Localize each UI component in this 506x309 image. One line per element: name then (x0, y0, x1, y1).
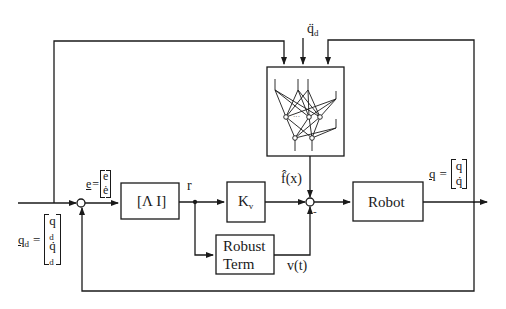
neural-network-block (267, 67, 344, 156)
robust-block-label-1: Robust (223, 239, 266, 254)
vt-label: v(t) (287, 259, 307, 273)
summing-junction-1 (77, 199, 85, 207)
r-label: r (187, 179, 192, 193)
feedback-line (82, 202, 474, 291)
error-label: e= eė (86, 170, 111, 198)
robust-block-label-2: Term (223, 257, 254, 272)
svg-text:···: ··· (293, 113, 300, 121)
kv-block-label: Kv (238, 194, 253, 209)
robot-block-label: Robot (368, 195, 405, 210)
r-to-robust-line (195, 202, 213, 255)
vt-line (274, 207, 310, 255)
qd-input-label: qd = qdq̇d (18, 214, 61, 265)
qdd-label: q̈d (307, 22, 319, 36)
output-q-label: q = qq̇ (429, 159, 467, 189)
lambda-block-label: [Λ I] (137, 194, 166, 209)
neural-network-icon: ··· (275, 79, 336, 151)
minus-sign: - (313, 206, 317, 217)
fhat-label: f̂(x) (281, 172, 302, 186)
